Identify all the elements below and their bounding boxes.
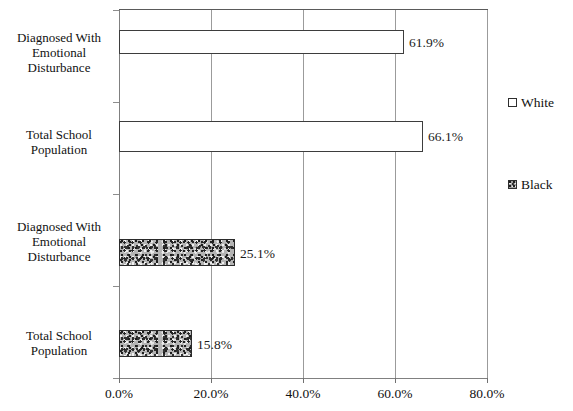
x-tick-mark-20 [211, 378, 212, 383]
x-tick-mark-80 [487, 378, 488, 383]
category-label-line-1: Total School [3, 127, 115, 142]
x-tick-mark-0 [119, 378, 120, 383]
category-label-white-diagnosed: Diagnosed With Emotional Disturbance [3, 30, 115, 75]
bar-white-total [119, 121, 423, 152]
y-tick-mark-3 [113, 286, 119, 287]
bar-value-black-diagnosed: 25.1% [240, 247, 275, 261]
category-label-line-1: Diagnosed With [3, 219, 115, 234]
x-tick-label-20: 20.0% [176, 387, 246, 401]
category-label-line-2: Emotional [3, 45, 115, 60]
legend-item-white[interactable]: White [508, 96, 554, 110]
legend-label-white: White [521, 96, 554, 110]
legend-label-black: Black [521, 178, 553, 192]
gridline-60 [395, 10, 396, 378]
bar-white-diagnosed [119, 30, 404, 54]
speckled-square-icon [508, 180, 517, 189]
x-tick-label-60: 60.0% [360, 387, 430, 401]
x-tick-label-0: 0.0% [84, 387, 154, 401]
bar-black-total [119, 330, 192, 357]
gridline-20 [211, 10, 212, 378]
category-label-black-total: Total School Population [3, 328, 115, 358]
category-label-line-1: Total School [3, 328, 115, 343]
white-square-icon [508, 98, 517, 107]
legend-item-black[interactable]: Black [508, 178, 553, 192]
x-tick-mark-40 [303, 378, 304, 383]
y-tick-mark-4 [113, 378, 119, 379]
category-label-white-total: Total School Population [3, 127, 115, 157]
gridline-80 [487, 10, 488, 378]
x-tick-label-40: 40.0% [268, 387, 338, 401]
bar-chart: 61.9% 66.1% 25.1% 15.8% Diagnosed With E… [0, 0, 573, 411]
y-tick-mark-1 [113, 102, 119, 103]
category-label-black-diagnosed: Diagnosed With Emotional Disturbance [3, 219, 115, 264]
category-label-line-2: Emotional [3, 234, 115, 249]
x-tick-mark-60 [395, 378, 396, 383]
category-label-line-2: Population [3, 343, 115, 358]
y-axis-line [119, 10, 120, 379]
x-tick-label-80: 80.0% [452, 387, 522, 401]
category-label-line-1: Diagnosed With [3, 30, 115, 45]
category-label-line-3: Disturbance [3, 60, 115, 75]
bar-value-black-total: 15.8% [197, 338, 232, 352]
bar-value-white-total: 66.1% [428, 130, 463, 144]
category-label-line-3: Disturbance [3, 249, 115, 264]
bar-value-white-diagnosed: 61.9% [409, 36, 444, 50]
bar-black-diagnosed [119, 239, 235, 266]
gridline-40 [303, 10, 304, 378]
y-tick-mark-0 [113, 10, 119, 11]
category-label-line-2: Population [3, 142, 115, 157]
y-tick-mark-2 [113, 194, 119, 195]
